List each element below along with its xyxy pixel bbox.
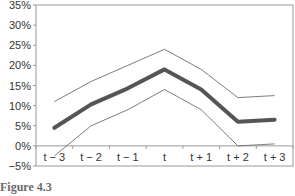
y-axis: 35%30%25%20%15%10%5%0%−5% (9, 0, 36, 172)
plot-frame (36, 5, 293, 166)
line-chart: 35%30%25%20%15%10%5%0%−5% t − 3t − 2t − … (0, 0, 295, 180)
y-tick-label: 25% (9, 39, 31, 51)
y-tick-label: 20% (9, 59, 31, 71)
series-lines (54, 49, 274, 156)
y-tick-label: −5% (9, 160, 32, 172)
y-tick-label: 5% (15, 120, 31, 132)
y-tick-label: 0% (15, 140, 31, 152)
x-tick-label: t − 1 (117, 151, 139, 163)
x-tick-label: t − 3 (43, 151, 65, 163)
x-tick-label: t + 1 (190, 151, 212, 163)
x-axis: t − 3t − 2t − 1tt + 1t + 2t + 3 (36, 146, 293, 163)
x-tick-label: t − 2 (80, 151, 102, 163)
x-tick-label: t (163, 151, 166, 163)
y-tick-label: 35% (9, 0, 31, 11)
x-tick-label: t + 3 (264, 151, 286, 163)
confidence-band-line (54, 49, 274, 101)
central-estimate-line (54, 69, 274, 127)
x-tick-label: t + 2 (227, 151, 249, 163)
figure-caption: Figure 4.3 (0, 180, 52, 195)
y-tick-label: 10% (9, 100, 31, 112)
y-tick-label: 30% (9, 19, 31, 31)
y-tick-label: 15% (9, 80, 31, 92)
